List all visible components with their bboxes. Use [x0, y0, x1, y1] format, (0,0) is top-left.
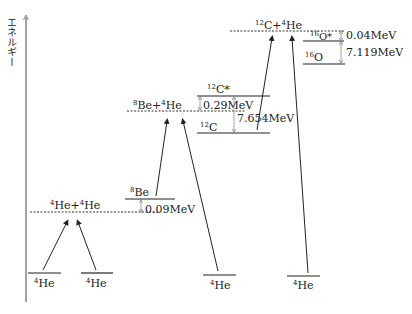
label-c12-star: 12C*: [207, 84, 230, 95]
axis-label: エネルギー: [3, 17, 15, 67]
label-he-he: 4He+4He: [50, 200, 100, 211]
arrow-4: [183, 121, 218, 271]
gap-be8: 0.09MeV: [145, 204, 195, 215]
label-be8: 8Be: [130, 187, 149, 198]
label-c-he: 12C+4He: [255, 20, 302, 31]
label-c12: 12C: [200, 122, 217, 133]
label-he4-2: 4He: [86, 278, 107, 289]
label-o16: 16O: [305, 52, 323, 63]
label-he4-4: 4He: [293, 280, 314, 291]
label-be-he: 8Be+4He: [133, 100, 182, 111]
gap-o16: 7.119MeV: [346, 47, 403, 58]
gap-o16-star: 0.04MeV: [346, 30, 396, 41]
arrow-2: [78, 222, 96, 270]
label-o16-star: 16O*: [310, 31, 332, 42]
label-he4-3: 4He: [210, 280, 231, 291]
label-he4-1: 4He: [34, 278, 55, 289]
gap-c12: 7.654MeV: [237, 113, 294, 124]
gap-c12-star: 0.29MeV: [203, 100, 253, 111]
arrow-6: [292, 38, 308, 273]
arrow-3: [156, 121, 167, 196]
arrow-1: [43, 222, 67, 270]
